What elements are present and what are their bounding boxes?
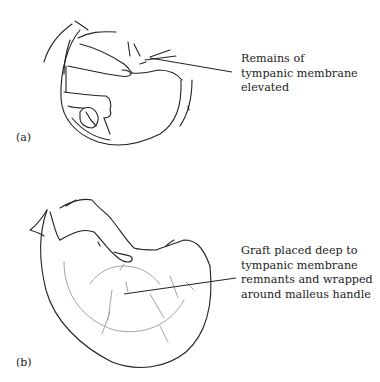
annotation-b-line-4: around malleus handle: [241, 288, 373, 303]
annotation-b-line-1: Graft placed deep to: [241, 244, 373, 259]
graft-outline: [41, 210, 211, 367]
panel-a-tag: (a): [16, 131, 31, 144]
leader-line-b: [124, 278, 236, 294]
graft-arc-outer: [64, 262, 184, 332]
annotation-a: Remains of tympanic membrane elevated: [241, 52, 358, 96]
annotation-b: Graft placed deep to tympanic membrane r…: [241, 244, 373, 302]
figure-canvas: Remains of tympanic membrane elevated (a…: [0, 0, 380, 382]
annotation-b-line-3: remnants and wrapped: [241, 273, 373, 288]
annotation-a-line-1: Remains of: [241, 52, 358, 67]
annotation-b-line-2: tympanic membrane: [241, 259, 373, 274]
annotation-a-line-3: elevated: [241, 81, 358, 96]
annotation-a-line-2: tympanic membrane: [241, 67, 358, 82]
panel-b-tag: (b): [16, 356, 32, 369]
